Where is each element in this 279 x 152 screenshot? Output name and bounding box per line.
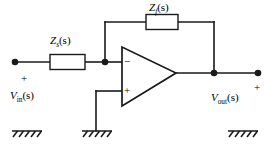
polarity-sign-input-positive: + xyxy=(21,73,27,84)
label-vout-argument: (s) xyxy=(227,91,239,103)
circuit-schematic-canvas xyxy=(0,0,279,152)
label-vout-subscript: out xyxy=(218,98,227,106)
opamp-inverting-input-sign: − xyxy=(124,56,130,67)
ground-symbol-output xyxy=(228,131,258,137)
resistor-zf-body xyxy=(146,15,178,30)
label-input-impedance: Zs(s) xyxy=(50,35,71,49)
label-vin-argument: (s) xyxy=(22,89,34,101)
label-vout-symbol: V xyxy=(211,91,218,103)
label-vin-symbol: V xyxy=(10,89,17,101)
resistor-zs-body xyxy=(50,55,85,70)
junction-dot-inverting-node xyxy=(102,59,109,66)
label-output-voltage: Vout(s) xyxy=(211,92,239,106)
label-zs-argument: (s) xyxy=(59,34,71,46)
junction-dot-output-node xyxy=(211,70,218,77)
label-zf-argument: (s) xyxy=(157,1,169,13)
terminal-dot-output xyxy=(255,70,262,77)
opamp-noninverting-input-sign: + xyxy=(124,85,130,96)
terminal-dot-input xyxy=(12,59,19,66)
polarity-sign-output-positive: + xyxy=(254,82,260,93)
label-feedback-impedance: Zf(s) xyxy=(149,2,169,16)
ground-symbol-input xyxy=(12,131,42,137)
circuit-diagram: Zs(s) Zf(s) Vin(s) Vout(s) + + − + xyxy=(0,0,279,152)
label-input-voltage: Vin(s) xyxy=(10,90,34,104)
ground-symbol-noninverting xyxy=(82,131,112,137)
